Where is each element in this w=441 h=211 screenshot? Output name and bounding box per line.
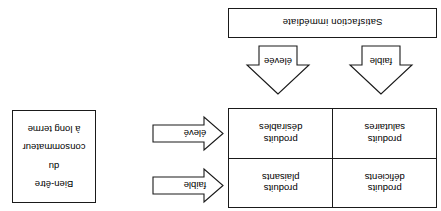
matrix-cell-line1: produits <box>368 134 402 145</box>
vertical-axis-title-line4: à long terme <box>28 120 81 138</box>
matrix-cell-line2: plaisants <box>262 172 300 183</box>
axis-arrow-label: faible <box>370 57 393 84</box>
matrix-cell-line1: produits <box>264 183 298 194</box>
vertical-axis-title-line1: Bien-être <box>35 175 74 193</box>
product-classification-matrix: produits déficients produits plaisants p… <box>228 108 437 208</box>
matrix-cell-line1: produits <box>264 134 298 145</box>
axis-arrow-label: élevée <box>264 57 292 84</box>
matrix-cell-produits-deficients: produits déficients <box>333 158 437 207</box>
vertical-axis-title-line3: consommateur <box>23 138 86 156</box>
horizontal-axis-title: Satisfaction immédiate <box>283 18 383 29</box>
matrix-cell-line2: désirables <box>259 122 302 133</box>
horizontal-axis-title-box: Satisfaction immédiate <box>228 8 437 38</box>
axis-arrow-satisfaction-faible: faible <box>347 44 415 96</box>
matrix-cell-line1: produits <box>368 183 402 194</box>
axis-arrow-wellbeing-faible: faible <box>151 167 225 204</box>
axis-arrow-satisfaction-elevee: élevée <box>244 44 312 96</box>
matrix-cell-produits-desirables: produits désirables <box>229 109 333 158</box>
vertical-axis-title-line2: du <box>49 157 60 175</box>
axis-arrow-label: faible <box>170 180 207 191</box>
matrix-cell-line2: déficients <box>365 172 405 183</box>
axis-arrow-wellbeing-eleve: élevé <box>151 115 225 152</box>
matrix-cell-line2: salutaires <box>364 122 405 133</box>
matrix-cell-produits-plaisants: produits plaisants <box>229 158 333 207</box>
vertical-axis-title-box: Bien-être du consommateur à long terme <box>12 110 96 203</box>
matrix-cell-produits-salutaires: produits salutaires <box>333 109 437 158</box>
diagram-canvas: produits déficients produits plaisants p… <box>0 0 441 211</box>
axis-arrow-label: élevé <box>170 128 207 139</box>
